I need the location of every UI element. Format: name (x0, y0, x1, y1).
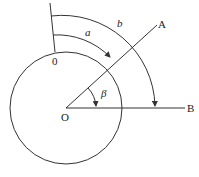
arc-label-b: b (117, 17, 123, 29)
arc-beta (88, 88, 96, 106)
ray-label-A: A (158, 18, 166, 30)
arc-label-a: a (85, 26, 91, 38)
angle-label-beta: β (100, 87, 107, 99)
ray-label-B: B (187, 102, 194, 114)
ray-OA (66, 25, 157, 108)
center-label-O: O (61, 111, 69, 123)
angle-diagram: 0 O A B a b β (0, 0, 199, 177)
zero-reference-line (50, 3, 55, 52)
zero-label: 0 (52, 55, 58, 67)
